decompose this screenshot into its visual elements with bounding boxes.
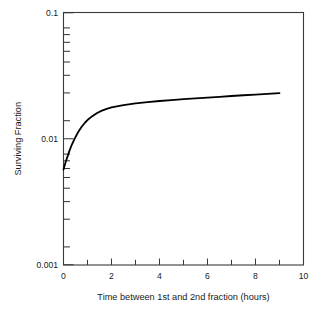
x-axis-title: Time between 1st and 2nd fraction (hours… xyxy=(97,292,269,302)
x-tick-label-0: 0 xyxy=(61,271,66,281)
x-tick-label-10: 10 xyxy=(299,271,309,281)
semilog-line-chart: 0.1 0.01 0.001 0 2 4 6 8 10 Time between… xyxy=(0,0,321,311)
chart-figure: 0.1 0.01 0.001 0 2 4 6 8 10 Time between… xyxy=(0,0,321,311)
y-tick-label-0.1: 0.1 xyxy=(46,8,58,18)
y-tick-label-0.01: 0.01 xyxy=(41,134,58,144)
x-tick-label-8: 8 xyxy=(253,271,258,281)
y-tick-label-0.001: 0.001 xyxy=(36,260,58,270)
y-axis-title: Surviving Fraction xyxy=(13,102,23,176)
x-tick-label-6: 6 xyxy=(205,271,210,281)
x-tick-label-2: 2 xyxy=(109,271,114,281)
x-tick-label-4: 4 xyxy=(157,271,162,281)
